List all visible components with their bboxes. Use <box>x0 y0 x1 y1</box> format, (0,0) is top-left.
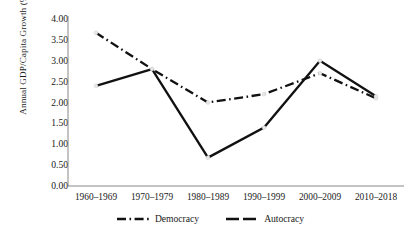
data-point-democracy-2 <box>206 101 210 105</box>
data-point-autocracy-4 <box>318 59 322 63</box>
data-point-autocracy-2 <box>206 156 210 160</box>
legend-label: Autocracy <box>264 213 304 224</box>
legend-swatch-autocracy <box>225 214 259 224</box>
plot-area <box>0 0 420 242</box>
data-point-democracy-3 <box>262 92 266 96</box>
data-point-autocracy-3 <box>262 126 266 130</box>
data-point-democracy-0 <box>94 31 98 35</box>
chart-container: Annual GDP/Capita Growth (%) 4.003.503.0… <box>0 0 420 242</box>
series-line-democracy <box>96 33 376 103</box>
data-point-democracy-4 <box>318 71 322 75</box>
series-line-autocracy <box>96 61 376 158</box>
legend-swatch-democracy <box>116 214 150 224</box>
data-point-autocracy-1 <box>150 67 154 71</box>
data-point-autocracy-0 <box>94 84 98 88</box>
legend-item-autocracy[interactable]: Autocracy <box>225 213 304 224</box>
legend-item-democracy[interactable]: Democracy <box>116 213 199 224</box>
chart-legend: DemocracyAutocracy <box>0 213 420 224</box>
legend-label: Democracy <box>155 213 199 224</box>
data-point-autocracy-5 <box>374 94 378 98</box>
